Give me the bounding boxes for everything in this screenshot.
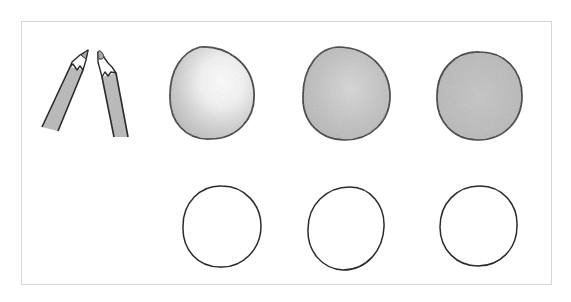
shaded-circle-medium — [303, 47, 390, 140]
left-pencil-icon — [42, 50, 88, 131]
right-pencil-icon — [98, 51, 128, 137]
practice-circle-3 — [440, 186, 517, 266]
shaded-circle-light — [170, 47, 254, 139]
practice-circle-2 — [308, 187, 384, 270]
drawing-canvas — [0, 0, 571, 302]
practice-circle-1 — [183, 186, 261, 267]
shaded-circle-dark — [437, 52, 522, 140]
